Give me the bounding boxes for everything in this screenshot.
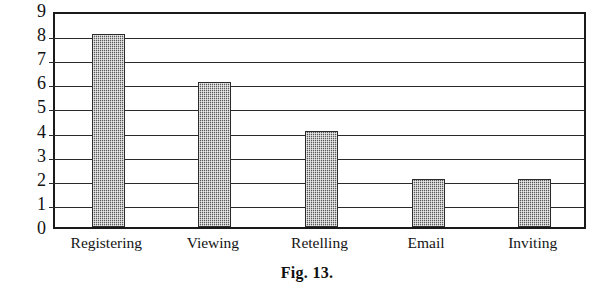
y-axis-tick (49, 62, 56, 63)
bar (92, 34, 125, 227)
y-axis-tick (49, 183, 56, 184)
gridline (55, 86, 584, 87)
y-axis-tick-label: 8 (24, 26, 46, 44)
plot-area (53, 12, 586, 229)
y-axis-tick-label: 7 (24, 50, 46, 68)
x-axis-category-label: Email (373, 233, 480, 253)
y-axis-tick-label: 3 (24, 147, 46, 165)
y-axis-tick-label: 5 (24, 98, 46, 116)
gridline (55, 110, 584, 111)
x-axis-category-label: Viewing (160, 233, 267, 253)
figure-container: 0123456789 RegisteringViewingRetellingEm… (0, 0, 614, 297)
bar (305, 131, 338, 227)
x-axis-category-label: Registering (53, 233, 160, 253)
figure-caption: Fig. 13. (0, 264, 614, 282)
y-axis-tick (49, 38, 56, 39)
bar (412, 179, 445, 227)
y-axis-tick-labels: 0123456789 (20, 12, 46, 229)
y-axis-tick (49, 110, 56, 111)
y-axis-tick-label: 1 (24, 195, 46, 213)
y-axis-tick-label: 0 (24, 219, 46, 237)
gridline (55, 38, 584, 39)
y-axis-tick-label: 4 (24, 123, 46, 141)
gridline (55, 62, 584, 63)
y-axis-tick-label: 2 (24, 171, 46, 189)
x-axis-category-label: Inviting (479, 233, 586, 253)
y-axis-tick (49, 207, 56, 208)
y-axis-tick-label: 9 (24, 2, 46, 20)
x-axis-category-label: Retelling (266, 233, 373, 253)
bar (518, 179, 551, 227)
y-axis-tick (49, 159, 56, 160)
y-axis-tick (49, 135, 56, 136)
y-axis-tick-label: 6 (24, 74, 46, 92)
x-axis-category-labels: RegisteringViewingRetellingEmailInviting (53, 233, 586, 257)
bar (198, 82, 231, 227)
y-axis-tick (49, 86, 56, 87)
